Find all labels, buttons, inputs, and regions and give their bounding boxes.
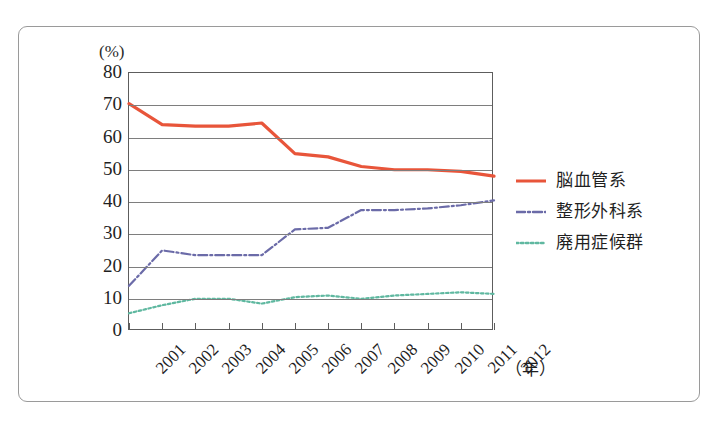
x-axis-tick-label: 2006 [318, 340, 356, 378]
series-line [129, 292, 494, 313]
legend-swatch-icon [516, 173, 546, 185]
gridline [129, 138, 492, 139]
x-axis-tick-mark [461, 323, 462, 330]
gridline [129, 170, 492, 171]
legend-item[interactable]: 廃用症候群 [516, 225, 676, 256]
y-axis-tick-label: 10 [80, 287, 122, 309]
x-axis-tick-label: 2009 [417, 340, 455, 378]
chart-root: (%) 80706050403020100 200120022003200420… [0, 0, 719, 430]
x-axis-tick-labels: 2001200220032004200520062007200820092010… [128, 330, 493, 400]
legend-label: 廃用症候群 [556, 228, 644, 253]
series-line [129, 200, 494, 285]
x-axis-tick-mark [162, 323, 163, 330]
x-axis-tick-mark [229, 323, 230, 330]
gridline [129, 234, 492, 235]
legend-swatch-icon [516, 204, 546, 216]
x-axis-tick-label: 2002 [185, 340, 223, 378]
x-axis-tick-label: 2003 [218, 340, 256, 378]
y-axis-tick-label: 40 [80, 190, 122, 212]
series-line [129, 104, 494, 177]
gridline [129, 105, 492, 106]
gridline [129, 202, 492, 203]
x-axis-tick-mark [361, 323, 362, 330]
plot-area [128, 72, 493, 330]
x-axis-tick-mark [195, 323, 196, 330]
legend-item[interactable]: 整形外科系 [516, 194, 676, 225]
y-axis-tick-label: 50 [80, 158, 122, 180]
x-axis-tick-label: 2007 [351, 340, 389, 378]
y-axis-unit-label: (%) [99, 42, 124, 62]
legend-label: 整形外科系 [556, 197, 644, 222]
x-axis-tick-mark [295, 323, 296, 330]
legend-label: 脳血管系 [556, 166, 626, 191]
x-axis-tick-label: 2005 [285, 340, 323, 378]
x-axis-tick-mark [394, 323, 395, 330]
x-axis-tick-mark [129, 323, 130, 330]
y-axis-tick-label: 0 [80, 319, 122, 341]
y-axis-tick-label: 30 [80, 222, 122, 244]
x-axis-tick-label: 2008 [384, 340, 422, 378]
x-axis-tick-label: 2010 [451, 340, 489, 378]
y-axis-tick-label: 70 [80, 93, 122, 115]
x-axis-tick-mark [428, 323, 429, 330]
x-axis-tick-mark [262, 323, 263, 330]
legend: 脳血管系整形外科系廃用症候群 [516, 163, 676, 256]
x-axis-tick-label: 2001 [152, 340, 190, 378]
y-axis-tick-label: 20 [80, 255, 122, 277]
gridline [129, 267, 492, 268]
legend-swatch-icon [516, 235, 546, 247]
x-axis-tick-label: 2004 [251, 340, 289, 378]
gridline [129, 299, 492, 300]
x-axis-tick-mark [328, 323, 329, 330]
x-axis-tick-mark [494, 323, 495, 330]
y-axis-tick-label: 60 [80, 126, 122, 148]
y-axis-tick-label: 80 [80, 61, 122, 83]
legend-item[interactable]: 脳血管系 [516, 163, 676, 194]
y-axis-tick-labels: 80706050403020100 [76, 72, 122, 330]
x-axis-unit-label: （年） [505, 355, 556, 380]
